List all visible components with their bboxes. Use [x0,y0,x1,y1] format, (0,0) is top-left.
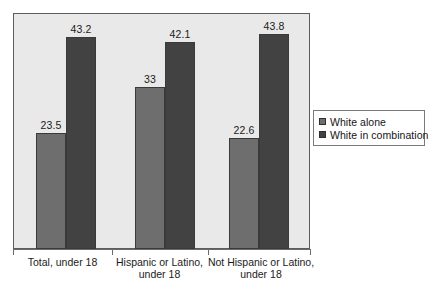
bar-white-alone [36,133,66,249]
axis-tick [112,249,113,255]
axis-tick [310,249,311,255]
legend-swatch-icon [319,118,326,125]
axis-tick [13,249,14,255]
legend-label: White alone [330,116,386,128]
bar-white-in-combination [66,37,96,249]
legend-label: White in combination [330,129,428,141]
bar-white-alone [229,138,259,249]
bar-chart: 23.543.23342.122.643.8 Total, under 18 H… [0,0,436,285]
bar-white-in-combination [165,42,195,249]
plot-inner: 23.543.23342.122.643.8 [13,13,310,249]
category-label-not-hispanic-or-latino-under-18: Not Hispanic or Latino, under 18 [206,256,316,280]
bar-value-label: 43.8 [251,20,297,32]
legend-item-white-in-combination: White in combination [319,128,420,141]
legend-item-white-alone: White alone [319,115,420,128]
bar-white-alone [135,87,165,249]
bar-white-in-combination [259,34,289,249]
bar-value-label: 42.1 [157,28,203,40]
category-label-total-under-18: Total, under 18 [13,256,112,268]
category-axis [13,249,310,250]
bar-value-label: 43.2 [58,23,104,35]
chart-legend: White alone White in combination [313,110,425,146]
axis-tick [208,249,209,255]
legend-swatch-icon [319,131,326,138]
category-label-hispanic-or-latino-under-18: Hispanic or Latino, under 18 [110,256,209,280]
